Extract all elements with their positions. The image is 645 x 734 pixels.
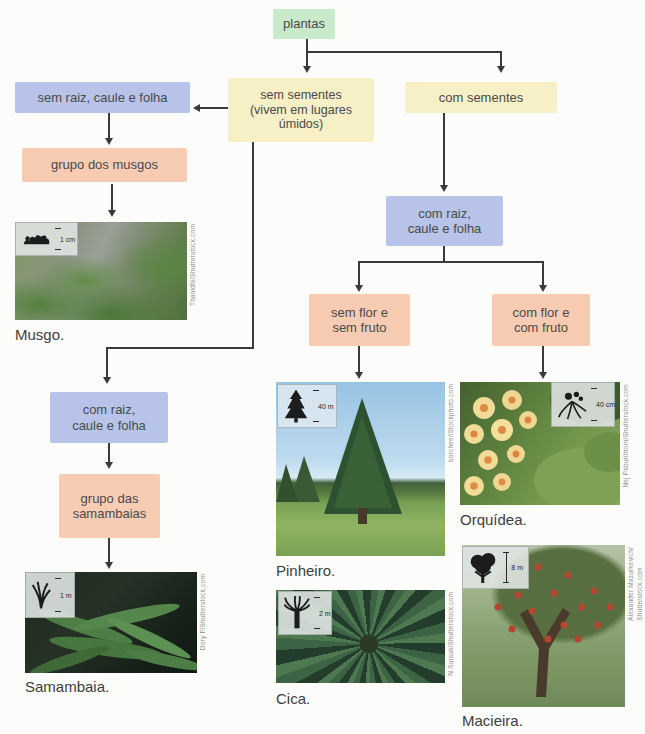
scale-inset-musgo: 1 cm — [15, 222, 78, 256]
scale-label: 1 cm — [60, 236, 75, 243]
photo-macieira: 8 m — [462, 545, 625, 707]
photo-caption-macieira: Macieira. — [462, 712, 523, 729]
node-grupo-dos-musgos: grupo dos musgos — [22, 148, 187, 182]
photo-caption-cica: Cica. — [276, 690, 310, 707]
node-grupo-das-samambaias: grupo das samambaias — [59, 474, 160, 538]
connector-line — [306, 51, 502, 53]
connector-line — [542, 346, 544, 373]
arrowhead-down-icon — [539, 372, 547, 379]
photo-credit-pinheiro: borchee/iStockphoto.com — [447, 384, 456, 462]
photo-credit-orquidea: Nej Paburithorn/Shutterstock.com — [622, 384, 631, 488]
connector-line — [443, 246, 445, 262]
connector-line — [500, 51, 502, 67]
connector-line — [108, 443, 110, 463]
scale-label: 40 m — [318, 403, 334, 410]
connector-line — [111, 184, 113, 211]
node-sem-sementes: sem sementes (vivem em lugares úmidos) — [228, 78, 374, 142]
cycad-silhouette-icon — [284, 596, 310, 630]
scale-label: 2 m — [319, 610, 331, 617]
arrowhead-down-icon — [440, 185, 448, 192]
scale-label: 8 m — [511, 564, 523, 571]
node-plantas: plantas — [273, 9, 335, 39]
photo-caption-musgo: Musgo. — [15, 326, 64, 343]
connector-line — [108, 538, 110, 563]
connector-line — [252, 142, 254, 349]
connector-line — [443, 113, 445, 186]
connector-line — [358, 346, 360, 373]
scale-inset-cica: 2 m — [278, 591, 332, 635]
arrowhead-down-icon — [303, 66, 311, 73]
arrowhead-down-icon — [355, 285, 363, 292]
photo-samambaia: 1 m — [25, 572, 197, 673]
arrowhead-down-icon — [105, 562, 113, 569]
connector-line — [106, 347, 254, 349]
photo-credit-macieira: Alexander Mazurkevich/ Shutterstock.com — [627, 547, 645, 621]
node-sem-raiz-caule-folha: sem raiz, caule e folha — [15, 82, 190, 113]
photo-cica: 2 m — [276, 590, 445, 683]
arrowhead-left-icon — [193, 104, 200, 112]
moss-silhouette-icon — [21, 230, 51, 249]
scale-measure-line — [506, 552, 507, 583]
arrowhead-down-icon — [108, 210, 116, 217]
pine-silhouette-icon — [283, 388, 309, 424]
photo-credit-samambaia: Dory F/Shutterstock.com — [199, 574, 208, 650]
connector-line — [358, 261, 360, 286]
photo-credit-cica: N.Sursuk/Shutterstock.com — [447, 592, 456, 676]
arrowhead-down-icon — [105, 138, 113, 145]
plant-classification-flowchart: plantas sem raiz, caule e folha sem seme… — [0, 0, 645, 734]
node-com-sementes: com sementes — [405, 82, 557, 113]
scale-inset-macieira: 8 m — [462, 546, 529, 589]
node-com-flor-com-fruto: com flor e com fruto — [492, 294, 590, 346]
photo-credit-musgo: Thanidhi/Shutterstock.com — [189, 224, 198, 306]
scale-inset-samambaia: 1 m — [25, 572, 75, 618]
node-com-raiz-caule-folha-left: com raiz, caule e folha — [50, 392, 168, 443]
photo-caption-pinheiro: Pinheiro. — [276, 562, 335, 579]
scale-inset-orquidea: 40 cm — [551, 382, 615, 427]
scale-label: 1 m — [60, 592, 72, 599]
node-sem-flor-sem-fruto: sem flor e sem fruto — [309, 294, 410, 346]
node-com-raiz-caule-folha-right: com raiz, caule e folha — [386, 196, 503, 246]
photo-caption-samambaia: Samambaia. — [25, 678, 109, 695]
photo-musgo: 1 cm — [15, 222, 187, 320]
arrowhead-down-icon — [539, 285, 547, 292]
connector-line — [200, 107, 228, 109]
photo-caption-orquidea: Orquídea. — [460, 511, 527, 528]
photo-pinheiro: 40 m — [276, 382, 445, 556]
connector-line — [358, 261, 544, 263]
arrowhead-down-icon — [105, 462, 113, 469]
fern-silhouette-icon — [31, 578, 51, 612]
arrowhead-down-icon — [497, 66, 505, 73]
scale-inset-pinheiro: 40 m — [277, 384, 337, 428]
photo-orquidea: 40 cm — [460, 382, 620, 505]
scale-label: 40 cm — [596, 401, 615, 408]
connector-line — [108, 113, 110, 139]
orchid-silhouette-icon — [557, 388, 587, 422]
apple-tree-silhouette-icon — [468, 551, 498, 585]
arrowhead-down-icon — [355, 372, 363, 379]
connector-line — [106, 347, 108, 378]
arrowhead-down-icon — [103, 377, 111, 384]
connector-line — [306, 51, 308, 67]
connector-line — [542, 261, 544, 286]
